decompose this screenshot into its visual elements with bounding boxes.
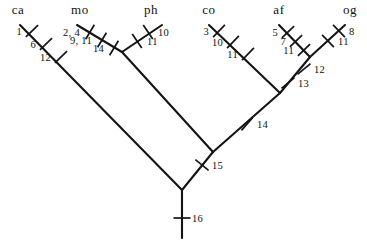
character-label: 16 — [192, 213, 203, 224]
branch-mo-ph — [122, 52, 213, 152]
character-tick — [241, 118, 252, 131]
character-label: 11 — [338, 36, 349, 47]
character-label: 12 — [314, 64, 325, 75]
character-tick — [227, 36, 239, 48]
character-label: 11 — [227, 49, 238, 60]
character-label: 14 — [93, 43, 105, 54]
taxon-label-af: af — [273, 2, 284, 17]
character-tick — [40, 38, 52, 50]
character-tick — [281, 78, 294, 89]
branch-node15 — [182, 152, 213, 190]
character-label: 9, 11 — [70, 35, 92, 46]
character-label: 11 — [283, 45, 294, 56]
taxon-label-og: og — [343, 2, 357, 17]
taxon-label-co: co — [202, 2, 215, 17]
character-mark-label-layer: 16122, 49, 11141011310115711811121314151… — [16, 26, 354, 224]
branch-co — [209, 25, 280, 93]
character-tick — [132, 34, 142, 48]
character-label: 5 — [272, 27, 278, 38]
taxon-label-layer: camophcoafog — [12, 2, 357, 17]
character-label: 6 — [30, 39, 36, 50]
character-label: 13 — [298, 78, 309, 89]
cladogram-figure: 16122, 49, 11141011310115711811121314151… — [0, 0, 367, 244]
character-label: 14 — [257, 119, 269, 130]
branch-node14 — [213, 93, 280, 152]
cladogram-canvas: 16122, 49, 11141011310115711811121314151… — [0, 0, 367, 244]
taxon-label-mo: mo — [71, 2, 89, 17]
taxon-label-ca: ca — [12, 2, 25, 17]
character-label: 3 — [203, 26, 209, 37]
branch-layer — [20, 25, 345, 238]
character-label: 11 — [147, 36, 158, 47]
character-label: 15 — [212, 160, 223, 171]
character-tick — [55, 51, 67, 63]
character-tick — [242, 48, 254, 60]
character-label: 10 — [158, 27, 169, 38]
character-label: 8 — [349, 26, 355, 37]
taxon-label-ph: ph — [144, 2, 158, 17]
character-tick — [26, 25, 38, 37]
character-label: 1 — [16, 26, 22, 37]
character-label: 12 — [40, 52, 51, 63]
character-label: 10 — [212, 37, 223, 48]
